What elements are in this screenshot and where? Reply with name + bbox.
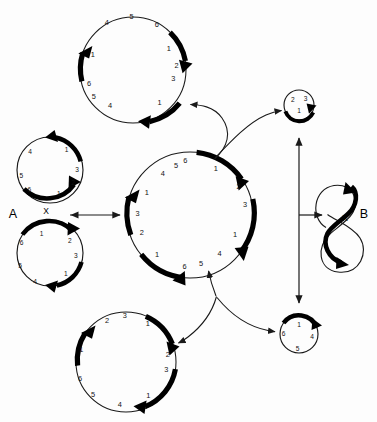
- marker-label: 4: [108, 101, 112, 110]
- marker-labels-small-bottom-right-ring: 1 4 5 6: [282, 321, 315, 352]
- small-top-right-ring: [284, 90, 317, 121]
- center-ring: [125, 152, 255, 286]
- marker-label: 3: [304, 95, 308, 102]
- marker-label: 1: [167, 44, 171, 53]
- label-x-left: X: [43, 206, 49, 216]
- marker-label: 5: [19, 172, 23, 179]
- marker-label: 1: [146, 319, 150, 328]
- marker-label: 3: [74, 252, 78, 259]
- marker-label: 6: [20, 239, 24, 246]
- marker-label: 6: [155, 20, 159, 29]
- marker-label: 1: [57, 190, 61, 197]
- marker-label: 3: [135, 209, 139, 218]
- marker-label: 5: [199, 259, 203, 268]
- marker-label: 2: [175, 61, 179, 70]
- marker-label: 6: [87, 79, 91, 88]
- marker-label: 4: [161, 169, 165, 178]
- small-bottom-right-ring: [280, 315, 322, 353]
- marker-label: 6: [183, 262, 187, 271]
- marker-label: 1: [158, 98, 162, 107]
- label-x-right: X: [342, 213, 348, 223]
- connector-center-bottom-branch: [179, 271, 276, 343]
- figure-eight-ring: [316, 182, 364, 272]
- marker-label: 2: [140, 228, 144, 237]
- top-ring: [78, 17, 192, 129]
- marker-label: 5: [18, 262, 22, 269]
- marker-label: 3: [123, 311, 127, 320]
- marker-label: 3: [164, 365, 168, 374]
- marker-label: 4: [217, 249, 221, 258]
- marker-label: 1: [79, 345, 83, 354]
- marker-label: 2: [71, 179, 75, 186]
- marker-label: 6: [282, 330, 286, 337]
- marker-label: 4: [105, 18, 109, 27]
- connector-center-top-branch: [191, 105, 282, 160]
- marker-label: 5: [296, 345, 300, 352]
- marker-label: 1: [155, 250, 159, 259]
- marker-label: 2: [236, 182, 240, 191]
- marker-label: 1: [214, 164, 218, 173]
- marker-label: 1: [145, 188, 149, 197]
- recombination-diagram: 4 5 6 1 2 3 1 4 5 6 1 6 1 2 3 1 4 5 6 1 …: [0, 0, 377, 422]
- marker-label: 3: [75, 166, 79, 173]
- marker-labels-center-ring: 6 1 2 3 1 4 5 6 1 2 3 1 4 5: [135, 156, 247, 271]
- marker-label: 1: [64, 270, 68, 277]
- marker-label: 4: [118, 400, 122, 409]
- marker-label: 4: [310, 333, 314, 340]
- marker-label: 4: [28, 148, 32, 155]
- double-arrow-left: [70, 211, 120, 218]
- marker-labels-small-top-right-ring: 2 3 1: [291, 95, 308, 114]
- marker-label: 2: [105, 316, 109, 325]
- marker-label: 1: [297, 107, 301, 114]
- marker-label: 1: [91, 50, 95, 59]
- marker-label: 2: [291, 96, 295, 103]
- marker-label: 6: [27, 186, 31, 193]
- marker-label: 1: [146, 391, 150, 400]
- marker-label: 3: [171, 74, 175, 83]
- marker-label: 4: [33, 278, 37, 285]
- marker-label: 6: [183, 156, 187, 165]
- marker-label: 6: [78, 374, 82, 383]
- marker-label: 2: [166, 350, 170, 359]
- marker-label: 5: [92, 92, 96, 101]
- diagram-canvas: 4 5 6 1 2 3 1 4 5 6 1 6 1 2 3 1 4 5 6 1 …: [0, 0, 377, 422]
- marker-label: 1: [40, 230, 44, 237]
- marker-label: 3: [243, 200, 247, 209]
- marker-label: 5: [174, 161, 178, 170]
- marker-label: 1: [297, 321, 301, 328]
- label-b: B: [360, 207, 368, 221]
- label-a: A: [9, 207, 18, 221]
- marker-label: 1: [65, 146, 69, 153]
- marker-label: 5: [129, 12, 133, 21]
- marker-label: 5: [91, 390, 95, 399]
- marker-labels-top-ring: 4 5 6 1 2 3 1 4 5 6 1: [87, 12, 179, 110]
- marker-label: 2: [68, 237, 72, 244]
- marker-label: 1: [233, 230, 237, 239]
